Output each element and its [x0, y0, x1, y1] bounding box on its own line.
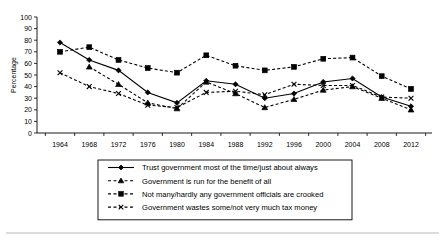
marker-square — [379, 74, 384, 79]
legend-item[interactable]: Not many/hardly any government officials… — [108, 190, 323, 199]
marker-square — [58, 49, 63, 54]
marker-diamond — [350, 76, 355, 81]
marker-diamond — [87, 57, 92, 62]
x-tick-label: 1976 — [140, 141, 156, 148]
marker-square — [119, 192, 124, 197]
legend-item-label: Not many/hardly any government officials… — [142, 190, 323, 199]
y-tick-label: 20 — [24, 106, 32, 113]
x-tick-label: 2008 — [374, 141, 390, 148]
x-tick-label: 1964 — [52, 141, 68, 148]
y-tick-label: 30 — [24, 95, 32, 102]
marker-square — [116, 58, 121, 63]
marker-square — [292, 64, 297, 69]
y-tick-label: 80 — [24, 37, 32, 44]
series-1 — [57, 40, 413, 109]
marker-square — [87, 45, 92, 50]
marker-diamond — [291, 91, 296, 96]
x-tick-label: 1988 — [228, 141, 244, 148]
marker-square — [175, 70, 180, 75]
marker-square — [145, 66, 150, 71]
y-tick-label: 50 — [24, 72, 32, 79]
legend-item-label: Government wastes some/not very much tax… — [142, 203, 317, 212]
x-tick-label: 1992 — [257, 141, 273, 148]
x-tick-label: 1972 — [111, 141, 127, 148]
series-layer — [57, 40, 414, 112]
legend-item-label: Trust government most of the time/just a… — [142, 163, 318, 172]
marker-triangle — [408, 107, 414, 112]
line-chart: Percentage 0102030405060708090100 196419… — [0, 0, 445, 242]
legend-item[interactable]: Government wastes some/not very much tax… — [108, 203, 317, 212]
marker-square — [262, 68, 267, 73]
x-tick-label: 2004 — [345, 141, 361, 148]
x-tick-label: 2000 — [315, 141, 331, 148]
y-tick-label: 60 — [24, 60, 32, 67]
marker-diamond — [57, 40, 62, 45]
marker-x — [58, 70, 63, 75]
marker-triangle — [86, 64, 92, 69]
x-tick-label: 1984 — [198, 141, 214, 148]
y-tick-label: 90 — [24, 25, 32, 32]
y-tick-label: 70 — [24, 48, 32, 55]
y-axis-title-label: Percentage — [10, 57, 18, 93]
x-axis-ticks: 1964196819721976198019841988199219962000… — [45, 133, 425, 148]
chart-figure: Percentage 0102030405060708090100 196419… — [0, 0, 445, 242]
marker-square — [350, 55, 355, 60]
y-axis-title: Percentage — [10, 57, 18, 93]
marker-triangle — [116, 81, 122, 86]
y-tick-label: 0 — [28, 130, 32, 137]
series-line — [89, 67, 411, 110]
marker-x — [409, 96, 414, 101]
marker-square — [233, 63, 238, 68]
marker-square — [204, 53, 209, 58]
x-tick-label: 1968 — [81, 141, 97, 148]
x-tick-label: 2012 — [403, 141, 419, 148]
marker-diamond — [233, 82, 238, 87]
legend-item-label: Government is run for the benefit of all — [142, 177, 271, 186]
marker-square — [321, 56, 326, 61]
y-axis-ticks: 0102030405060708090100 — [20, 14, 37, 137]
series-line — [60, 43, 411, 107]
legend-item[interactable]: Trust government most of the time/just a… — [108, 163, 318, 172]
x-tick-label: 1980 — [169, 141, 185, 148]
y-tick-label: 100 — [20, 14, 32, 21]
y-tick-label: 40 — [24, 83, 32, 90]
x-tick-label: 1996 — [286, 141, 302, 148]
marker-x — [292, 82, 297, 87]
marker-x — [116, 91, 121, 96]
marker-diamond — [119, 165, 124, 170]
marker-square — [409, 87, 414, 92]
legend-item[interactable]: Government is run for the benefit of all — [108, 177, 271, 186]
chart-legend: Trust government most of the time/just a… — [98, 160, 352, 220]
series-2 — [86, 64, 414, 112]
y-tick-label: 10 — [24, 118, 32, 125]
axis-frame — [37, 17, 432, 133]
